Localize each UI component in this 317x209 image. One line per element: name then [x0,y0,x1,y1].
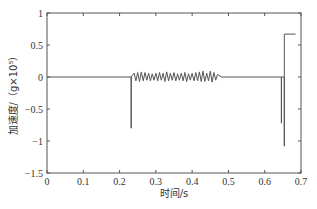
x-axis-label: 时间/s [160,187,189,199]
y-axis-label: 加速度/（g×10⁵） [7,51,19,136]
x-tick-label: 0.7 [295,176,308,187]
y-tick-label: 1 [38,8,43,19]
x-tick-label: 0.5 [222,176,235,187]
x-tick-label: 0.6 [258,176,271,187]
y-tick-label: −1 [32,136,43,147]
plot-frame [47,13,301,173]
y-tick-label: 0 [38,72,43,83]
y-tick-label: 0.5 [31,40,44,51]
x-tick-label: 0.2 [113,176,126,187]
chart: 00.10.20.30.40.50.60.7 10.50−0.5−1−1.5 时… [0,0,317,209]
x-axis-ticks: 00.10.20.30.40.50.60.7 [45,13,308,187]
y-axis-ticks: 10.50−0.5−1−1.5 [25,8,301,179]
x-tick-label: 0.3 [150,176,163,187]
y-tick-label: −0.5 [25,104,43,115]
x-tick-label: 0.1 [77,176,90,187]
y-tick-label: −1.5 [25,168,43,179]
acceleration-series-line [47,34,296,146]
x-tick-label: 0.4 [186,176,199,187]
x-tick-label: 0 [45,176,50,187]
